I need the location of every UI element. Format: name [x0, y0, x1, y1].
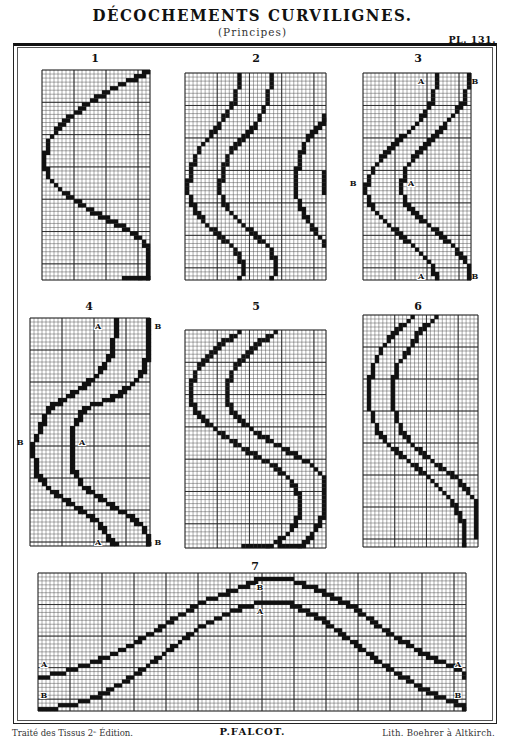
- figure-7-label-b-1: B: [257, 582, 264, 592]
- figure-4-label-b-2: B: [155, 321, 162, 331]
- figure-4-label-a-1: A: [94, 321, 102, 331]
- figure-7-label-a-2: A: [256, 606, 264, 616]
- figure-5-grid: [171, 316, 340, 562]
- figure-3-label-b-6: B: [472, 271, 479, 281]
- figure-2-curve-2: [217, 73, 278, 280]
- figure-4-label-a-5: A: [94, 537, 102, 547]
- footer-lithographer: Lith. Boehrer à Altkirch.: [382, 728, 495, 738]
- figure-4-label-b-6: B: [155, 537, 162, 547]
- figure-2-grid: [171, 59, 340, 294]
- figure-3-label-a-1: A: [417, 76, 425, 86]
- plate-title: DÉCOCHEMENTS CURVILIGNES.: [0, 5, 505, 26]
- figure-1-grid: [28, 56, 164, 294]
- figure-3-curve-1: [363, 73, 439, 280]
- figure-4-grid: ABBAAB: [16, 304, 164, 560]
- figure-number-5: 5: [246, 300, 266, 313]
- figure-7-grid: BAAABB: [24, 559, 480, 725]
- figure-3-grid: ABBAAB: [349, 59, 485, 294]
- figure-3-label-a-5: A: [417, 271, 425, 281]
- figure-7-label-b-5: B: [41, 690, 48, 700]
- figure-6-grid: [349, 301, 492, 561]
- figure-4-label-b-3: B: [17, 437, 24, 447]
- figure-2-curve-4: [322, 170, 326, 195]
- figure-3-label-b-3: B: [350, 178, 357, 188]
- figure-7-label-b-6: B: [455, 690, 462, 700]
- figure-3-label-b-2: B: [472, 76, 479, 86]
- figure-3-label-a-4: A: [407, 178, 415, 188]
- figure-7-label-a-3: A: [40, 659, 48, 669]
- figure-4-label-a-4: A: [78, 437, 86, 447]
- figure-7-label-a-4: A: [454, 659, 462, 669]
- plate-subtitle: (Principes): [0, 26, 505, 38]
- figure-2-curve-1: [185, 73, 246, 280]
